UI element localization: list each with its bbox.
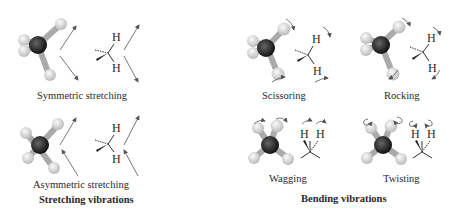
mode-label-rocking: Rocking: [384, 90, 420, 101]
atom-label-h: H: [427, 127, 436, 142]
molecule-ball-stick-twisting: [361, 120, 407, 166]
atom-label-h: H: [316, 127, 325, 142]
wedge-structure-rocking: [410, 44, 429, 61]
wedge-structure-symmetric: [95, 44, 114, 62]
wedge-structure-wagging: [301, 140, 320, 158]
atom-label-h: H: [427, 31, 436, 46]
mode-label-symmetric-stretching: Symmetric stretching: [37, 90, 127, 101]
mode-label-wagging: Wagging: [269, 173, 307, 184]
wedge-structure-twisting: [413, 140, 432, 158]
atom-label-h: H: [312, 32, 321, 47]
wedge-structure-scissoring: [295, 46, 314, 64]
panel-title-bending: Bending vibrations: [301, 193, 386, 204]
atom-label-h: H: [428, 61, 437, 76]
mode-label-twisting: Twisting: [383, 173, 420, 184]
mode-label-asymmetric-stretching: Asymmetric stretching: [33, 179, 129, 190]
stretch-arrows-symmetric-2: [124, 25, 139, 82]
atom-label-h: H: [411, 127, 420, 142]
wedge-structure-asymmetric: [95, 135, 114, 152]
molecule-ball-stick-rocking: [360, 21, 406, 81]
atom-label-h: H: [112, 30, 121, 45]
panel-title-stretching: Stretching vibrations: [39, 194, 134, 205]
mode-label-scissoring: Scissoring: [262, 90, 306, 101]
atom-label-h: H: [112, 61, 121, 76]
stretch-arrows-symmetric-1: [60, 26, 78, 80]
atom-label-h: H: [313, 64, 322, 79]
molecule-ball-stick-symmetric: [18, 18, 67, 81]
molecule-ball-stick-wagging: [248, 120, 294, 166]
atom-label-h: H: [112, 121, 121, 136]
molecule-ball-stick-scissoring: [247, 23, 291, 81]
atom-label-h: H: [112, 152, 121, 167]
stretch-arrows-asymmetric-2: [124, 116, 139, 176]
bend-arrows-wagging: [254, 118, 326, 124]
atom-label-h: H: [300, 127, 309, 142]
molecule-ball-stick-asymmetric: [20, 118, 64, 174]
